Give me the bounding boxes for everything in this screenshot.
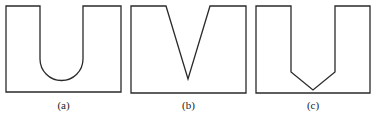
u-notch-outline (6, 6, 121, 92)
panel-a: (a) (6, 6, 121, 112)
notch-shapes-figure: (a) (b) (c) (0, 0, 377, 113)
panel-a-label: (a) (57, 99, 70, 112)
panel-b-label: (b) (182, 99, 195, 112)
panel-c-label: (c) (307, 99, 320, 112)
v-notch-outline (131, 6, 246, 93)
panel-b: (b) (131, 6, 246, 112)
panel-c: (c) (256, 6, 370, 112)
flat-v-notch-outline (256, 6, 370, 93)
